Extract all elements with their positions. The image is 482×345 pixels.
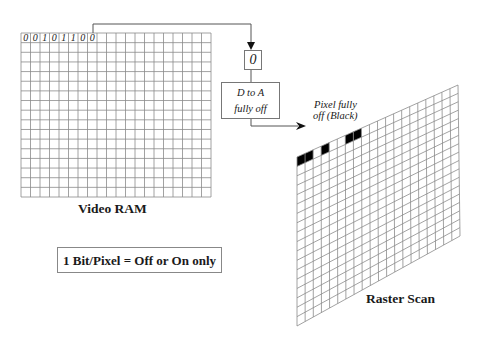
register-value: 0 — [245, 51, 261, 69]
bit-value: 0 — [31, 33, 41, 43]
bit-register-box: 0 — [244, 50, 262, 70]
bit-fetch-connector — [93, 24, 251, 44]
caption-text: 1 Bit/Pixel = Off or On only — [58, 253, 221, 269]
video-ram-grid — [21, 33, 211, 197]
bit-row: 00101100 — [21, 33, 97, 43]
bit-value: 1 — [69, 33, 79, 43]
bit-value: 1 — [59, 33, 69, 43]
dac-box: D to A fully off — [221, 82, 280, 119]
video-ram-label: Video RAM — [78, 201, 147, 217]
raster-scan-label: Raster Scan — [366, 291, 435, 307]
bit-value: 0 — [21, 33, 31, 43]
bit-value: 0 — [78, 33, 88, 43]
bit-value: 0 — [50, 33, 60, 43]
dac-label-line1: D to A — [222, 87, 279, 98]
raster-scan-grid — [297, 85, 460, 326]
caption-box: 1 Bit/Pixel = Off or On only — [57, 247, 222, 273]
dac-to-pixel-connector — [251, 118, 298, 126]
pixel-note-line2: off (Black) — [313, 110, 358, 121]
dac-label-line2: fully off — [222, 103, 279, 114]
bit-value: 1 — [40, 33, 50, 43]
bit-value: 0 — [88, 33, 98, 43]
arrow-down-icon — [247, 42, 255, 50]
pixel-note-line1: Pixel fully — [314, 99, 357, 110]
